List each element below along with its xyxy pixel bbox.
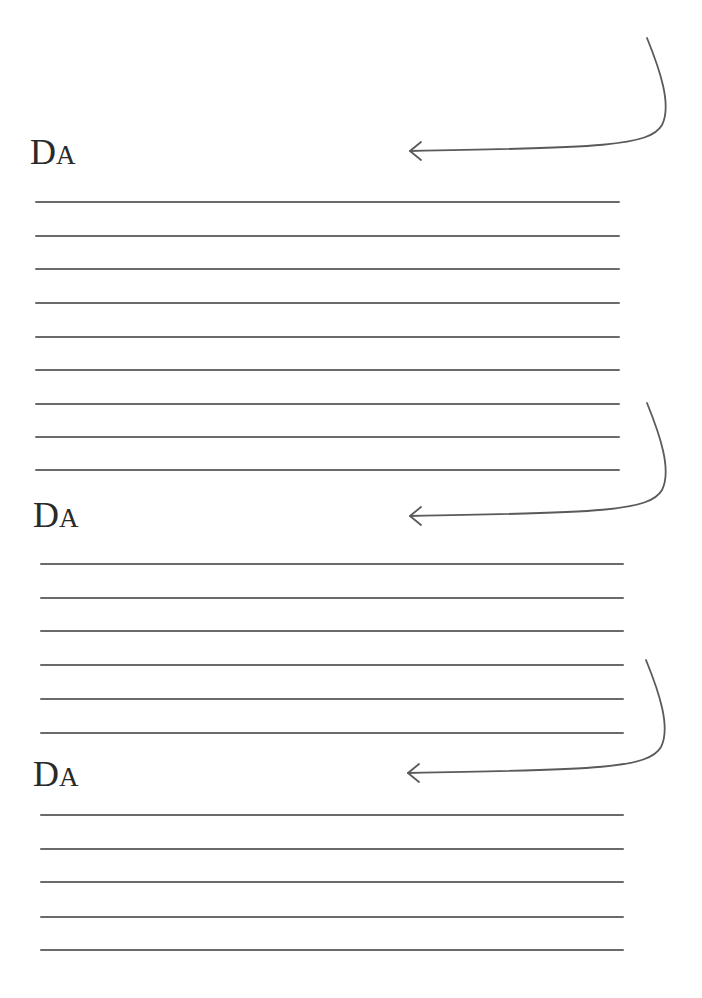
curved-arrow-left-icon (408, 660, 665, 782)
ruled-line (40, 949, 624, 951)
label-letter-d: D (33, 495, 59, 535)
ruled-line (40, 848, 624, 850)
ruled-line (35, 201, 620, 203)
ruled-line (35, 302, 620, 304)
section-label-da-2: DA (33, 497, 79, 533)
label-letter-d: D (33, 754, 59, 794)
curved-arrow-left-icon (410, 403, 666, 525)
label-letter-a: A (56, 140, 76, 170)
ruled-line (40, 698, 624, 700)
ruled-line (40, 732, 624, 734)
ruled-line (40, 814, 624, 816)
label-letter-a: A (59, 762, 79, 792)
worksheet-page: DA DA DA (0, 0, 702, 998)
curved-arrow-left-icon (410, 38, 666, 160)
ruled-line (40, 630, 624, 632)
ruled-line (35, 369, 620, 371)
ruled-line (35, 469, 620, 471)
ruled-line (40, 597, 624, 599)
ruled-line (35, 436, 620, 438)
label-letter-a: A (59, 503, 79, 533)
section-label-da-3: DA (33, 756, 79, 792)
ruled-line (35, 235, 620, 237)
ruled-line (40, 563, 624, 565)
label-letter-d: D (30, 132, 56, 172)
section-label-da-1: DA (30, 134, 76, 170)
ruled-line (40, 664, 624, 666)
ruled-line (40, 881, 624, 883)
ruled-line (35, 268, 620, 270)
ruled-line (35, 336, 620, 338)
ruled-line (35, 403, 620, 405)
ruled-line (40, 916, 624, 918)
